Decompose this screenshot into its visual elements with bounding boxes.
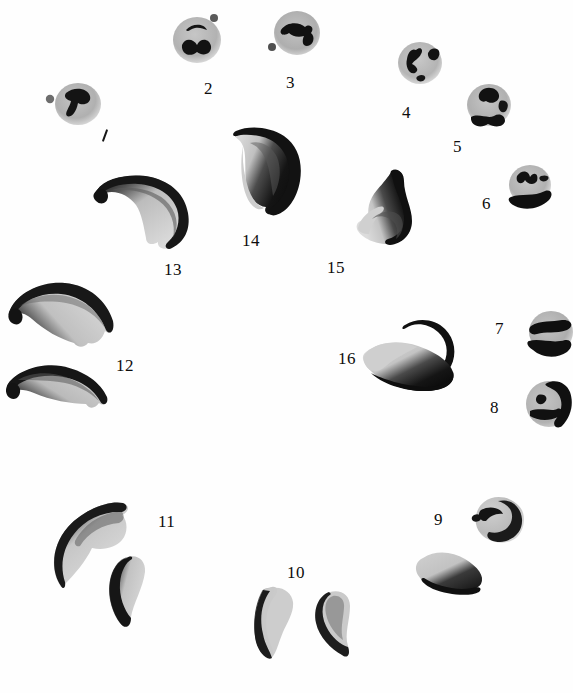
falciform-dark-edge-2	[7, 365, 107, 404]
falciform-horn	[402, 320, 454, 370]
falciform-shade	[372, 212, 403, 239]
chromatin-upper	[479, 88, 499, 103]
chromatin-slit	[479, 507, 503, 521]
specimen-12	[0, 276, 130, 421]
chromatin-right	[499, 101, 508, 113]
specimen-9	[466, 492, 530, 550]
specimen-11	[30, 493, 160, 648]
specimen-2	[168, 8, 226, 70]
falciform-shade-2	[325, 596, 344, 640]
specimen-10-label: 10	[287, 564, 305, 581]
specimen-3-label: 3	[286, 74, 295, 91]
specimen-2-label: 2	[204, 80, 213, 97]
falciform-dark-edge	[371, 372, 454, 391]
falciform-pale-upper	[364, 343, 417, 372]
specimen-3	[266, 2, 326, 64]
falciform-tail-dark	[93, 189, 108, 203]
specimen-7-label: 7	[495, 320, 504, 337]
falciform-dark-edge-2	[315, 592, 349, 657]
falciform-shade-2	[18, 373, 99, 401]
dark-rim	[545, 381, 571, 427]
falciform-body	[357, 170, 412, 244]
cell-body	[398, 42, 442, 84]
specimen-6	[504, 162, 560, 216]
cell-body	[526, 381, 572, 427]
chromatin-jagged	[517, 172, 538, 184]
falciform-body	[254, 587, 277, 658]
falciform-dark-edge	[421, 578, 480, 595]
specimen-15-label: 15	[327, 259, 345, 276]
falciform-shade	[75, 512, 124, 546]
chromatin-dash	[539, 175, 548, 181]
chromatin-wedge	[527, 340, 571, 357]
falciform-body-2	[7, 366, 107, 407]
falciform-pale-left	[241, 146, 264, 209]
cell-body	[476, 497, 524, 543]
cell-body	[274, 11, 320, 55]
falciform-body	[54, 502, 128, 587]
chromatin-arrow	[406, 48, 422, 73]
specimen-5-label: 5	[453, 138, 462, 155]
falciform-dark-edge	[254, 590, 272, 659]
falciform-body	[95, 176, 188, 249]
chromatin-bar	[530, 409, 562, 420]
specimen-10	[240, 585, 375, 693]
satellite-dot	[46, 95, 54, 103]
falciform-body	[363, 342, 454, 391]
cell-body	[55, 83, 101, 125]
specimen-1	[34, 72, 114, 138]
specimen-6-label: 6	[482, 195, 491, 212]
specimen-4-label: 4	[402, 104, 411, 121]
falciform-pale-left	[358, 207, 384, 234]
specimen-8	[522, 378, 573, 432]
specimen-16	[356, 314, 468, 398]
falciform-tail-dark	[8, 309, 22, 325]
chromatin-mass	[65, 89, 90, 117]
specimen-8-label: 8	[490, 399, 499, 416]
cell-body	[467, 84, 511, 126]
cell-body	[509, 165, 551, 205]
chromatin-band	[529, 320, 571, 334]
falciform-body	[9, 283, 113, 347]
falciform-body	[234, 128, 300, 214]
falciform-dark-edge	[54, 502, 127, 588]
dark-half	[487, 500, 522, 542]
specimen-14-label: 14	[242, 232, 260, 249]
specimen-11-label: 11	[158, 513, 175, 530]
satellite-dot	[268, 43, 276, 51]
specimen-1-label	[102, 129, 108, 142]
specimen-7	[524, 308, 573, 366]
falciform-shade	[250, 142, 280, 196]
cell-body	[529, 311, 573, 353]
falciform-horn	[385, 170, 411, 245]
falciform-dark-edge	[10, 283, 114, 333]
falciform-dark-edge	[233, 128, 301, 216]
falciform-body-2	[316, 591, 350, 655]
specimen-10-extra-body	[410, 543, 496, 599]
chromatin-lobes	[182, 40, 211, 55]
cell-body	[173, 17, 221, 63]
chromatin-wedge	[428, 49, 440, 61]
chromatin-lower-band	[471, 115, 505, 127]
falciform-dark-edge-2	[110, 557, 133, 627]
chromatin-dot	[536, 395, 546, 405]
chromatin-crescent-band	[509, 191, 552, 209]
chromatin-dot	[472, 514, 482, 522]
falciform-shade	[112, 188, 177, 238]
falciform-body	[416, 552, 482, 591]
specimen-13	[88, 168, 196, 260]
satellite-dot	[210, 14, 218, 22]
specimen-9-label: 9	[434, 511, 443, 528]
specimen-16-label: 16	[338, 350, 356, 367]
chromatin-band	[281, 23, 314, 46]
specimen-5	[462, 80, 522, 136]
falciform-body-pale	[255, 588, 293, 658]
specimen-15	[350, 165, 430, 260]
specimen-4	[394, 38, 448, 92]
specimen-13-label: 13	[164, 261, 182, 278]
specimen-14	[230, 122, 312, 232]
chromatin-arc	[186, 25, 207, 31]
falciform-tail-dark-2	[6, 383, 20, 399]
falciform-shade	[20, 295, 105, 328]
falciform-dark-edge	[95, 176, 189, 249]
